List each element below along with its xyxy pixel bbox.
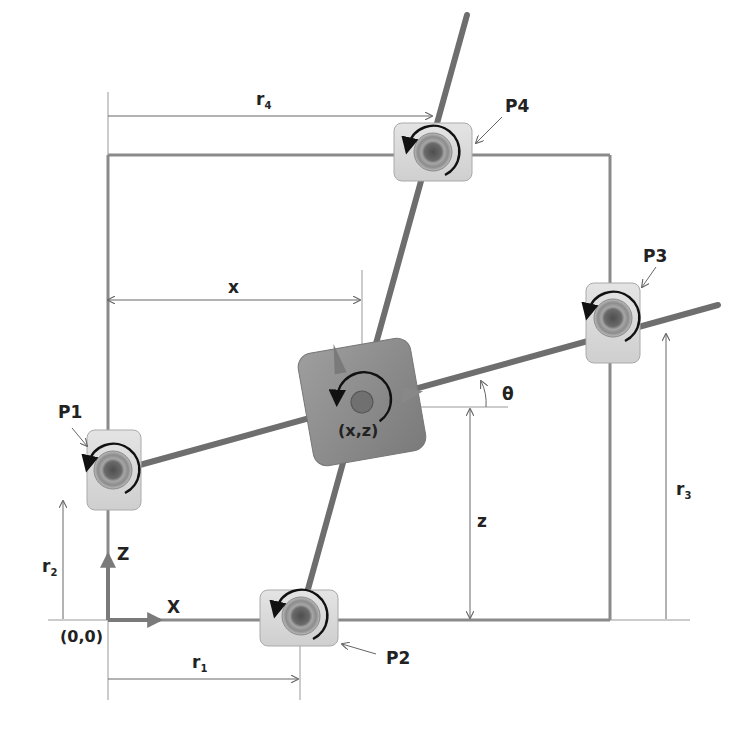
actuator-p2 (260, 590, 338, 646)
x-axis-label: X (167, 597, 180, 617)
r3-label: r3 (676, 479, 691, 501)
dimension-r3: r3 (666, 334, 691, 619)
r4-label: r4 (256, 89, 271, 111)
bar-short (305, 15, 467, 600)
theta-angle: θ (481, 381, 514, 407)
dimension-z: z (470, 409, 487, 618)
actuator-p4 (394, 123, 472, 181)
theta-label: θ (502, 384, 514, 404)
dimension-r2: r2 (42, 501, 63, 619)
dimension-r4: r4 (108, 89, 432, 116)
dimension-r1: r1 (108, 652, 298, 679)
p1-label: P1 (58, 402, 82, 422)
r2-label: r2 (42, 556, 57, 578)
z-dimension-label: z (477, 511, 487, 531)
actuator-p3 (586, 283, 640, 363)
coordinate-axes: X Z (0,0) (60, 544, 180, 646)
mechanism-diagram: r4 x z r1 r2 r3 θ X Z (0,0) (0, 0, 746, 747)
x-dimension-label: x (228, 277, 239, 297)
p3-label: P3 (643, 246, 667, 266)
p4-label: P4 (505, 96, 529, 116)
actuator-p1 (87, 430, 141, 510)
z-axis-label: Z (117, 544, 129, 564)
origin-label: (0,0) (60, 627, 103, 646)
p2-label: P2 (386, 648, 410, 668)
center-position-label: (x,z) (338, 421, 378, 440)
r1-label: r1 (192, 652, 207, 674)
dimension-x: x (108, 277, 360, 300)
center-platform (295, 330, 433, 468)
